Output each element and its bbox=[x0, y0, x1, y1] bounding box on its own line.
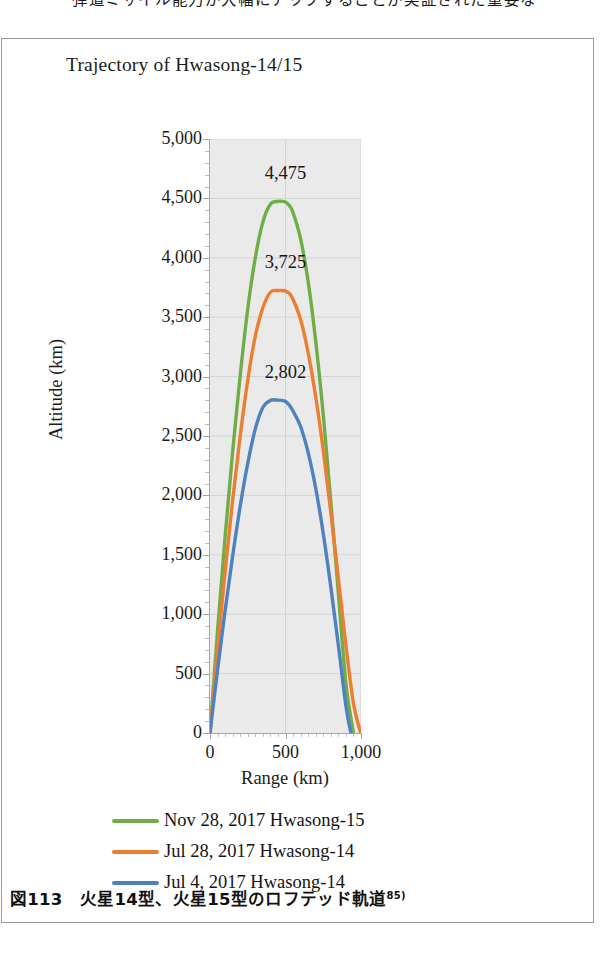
x-axis-tick bbox=[210, 734, 211, 739]
y-axis-minor-tick bbox=[205, 151, 209, 152]
trajectory-curves bbox=[210, 139, 361, 733]
y-axis-tick bbox=[203, 674, 209, 675]
y-axis-minor-tick bbox=[205, 448, 209, 449]
x-axis-minor-tick bbox=[233, 734, 234, 737]
trajectory-line bbox=[210, 201, 353, 733]
y-axis-tick bbox=[203, 733, 209, 734]
x-axis-minor-tick bbox=[338, 734, 339, 737]
x-axis-tick bbox=[286, 734, 287, 739]
y-axis-minor-tick bbox=[205, 424, 209, 425]
y-axis-minor-tick bbox=[205, 721, 209, 722]
x-axis-minor-tick bbox=[346, 734, 347, 737]
x-axis-tick-label: 1,000 bbox=[341, 742, 382, 763]
y-axis-tick-label: 1,500 bbox=[82, 544, 202, 565]
y-axis-minor-tick bbox=[205, 579, 209, 580]
data-label: 3,725 bbox=[265, 252, 307, 273]
data-label: 2,802 bbox=[265, 362, 307, 383]
y-axis-minor-tick bbox=[205, 163, 209, 164]
caption-spacer bbox=[63, 890, 80, 909]
figure-frame: Trajectory of Hwasong-14/15 05001,0001,5… bbox=[1, 38, 594, 923]
y-axis-tick-label: 500 bbox=[82, 663, 202, 684]
y-axis-minor-tick bbox=[205, 412, 209, 413]
y-axis-minor-tick bbox=[205, 484, 209, 485]
y-axis-minor-tick bbox=[205, 353, 209, 354]
x-axis-minor-tick bbox=[353, 734, 354, 737]
y-axis-minor-tick bbox=[205, 662, 209, 663]
x-axis-minor-tick bbox=[270, 734, 271, 737]
y-axis-minor-tick bbox=[205, 293, 209, 294]
x-axis-minor-tick bbox=[293, 734, 294, 737]
y-axis-tick bbox=[203, 198, 209, 199]
legend-item[interactable]: Jul 28, 2017 Hwasong-14 bbox=[2, 836, 568, 867]
y-axis-minor-tick bbox=[205, 305, 209, 306]
page-body-text: 弾道ミサイル能力が大幅にアップすることが実証された重要な bbox=[72, 0, 537, 9]
y-axis-minor-tick bbox=[205, 567, 209, 568]
y-axis-minor-tick bbox=[205, 341, 209, 342]
y-axis-minor-tick bbox=[205, 531, 209, 532]
y-axis-minor-tick bbox=[205, 329, 209, 330]
x-axis-minor-tick bbox=[240, 734, 241, 737]
y-axis-minor-tick bbox=[205, 282, 209, 283]
y-axis-minor-tick bbox=[205, 222, 209, 223]
x-axis-minor-tick bbox=[255, 734, 256, 737]
y-axis-minor-tick bbox=[205, 602, 209, 603]
figure-caption: 図113 火星14型、火星15型のロフテッド軌道85) bbox=[10, 886, 406, 910]
y-axis-tick bbox=[203, 377, 209, 378]
y-axis-minor-tick bbox=[205, 175, 209, 176]
x-axis-tick bbox=[361, 734, 362, 739]
y-axis-tick-label: 3,500 bbox=[82, 306, 202, 327]
y-axis-minor-tick bbox=[205, 234, 209, 235]
x-axis-minor-tick bbox=[301, 734, 302, 737]
y-axis-minor-tick bbox=[205, 460, 209, 461]
figure-caption-text: 火星14型、火星15型のロフテッド軌道 bbox=[80, 890, 387, 909]
y-axis-tick bbox=[203, 495, 209, 496]
y-axis-tick-label: 5,000 bbox=[82, 128, 202, 149]
x-axis-minor-tick bbox=[331, 734, 332, 737]
y-axis-tick-label: 4,500 bbox=[82, 187, 202, 208]
y-axis-minor-tick bbox=[205, 270, 209, 271]
x-axis-tick-label: 0 bbox=[206, 742, 215, 763]
y-axis-minor-tick bbox=[205, 543, 209, 544]
y-axis-tick-label: 3,000 bbox=[82, 366, 202, 387]
y-axis-minor-tick bbox=[205, 685, 209, 686]
y-axis-tick-label: 2,500 bbox=[82, 425, 202, 446]
legend-label: Nov 28, 2017 Hwasong-15 bbox=[164, 810, 364, 831]
x-axis-minor-tick bbox=[308, 734, 309, 737]
x-axis-minor-tick bbox=[218, 734, 219, 737]
y-axis-minor-tick bbox=[205, 638, 209, 639]
y-axis-tick-label: 0 bbox=[82, 722, 202, 743]
legend-label: Jul 28, 2017 Hwasong-14 bbox=[164, 841, 354, 862]
y-axis-minor-tick bbox=[205, 365, 209, 366]
figure-caption-number: 図113 bbox=[10, 890, 63, 909]
y-axis-minor-tick bbox=[205, 626, 209, 627]
y-axis-minor-tick bbox=[205, 388, 209, 389]
y-axis-title: Altitude (km) bbox=[46, 295, 67, 485]
page-body-text-clipped: 弾道ミサイル能力が大幅にアップすることが実証された重要な bbox=[0, 0, 616, 20]
figure-caption-area: 図113 火星14型、火星15型のロフテッド軌道85) bbox=[2, 882, 594, 923]
y-axis-minor-tick bbox=[205, 507, 209, 508]
x-axis-title: Range (km) bbox=[2, 768, 568, 789]
x-axis-minor-tick bbox=[225, 734, 226, 737]
data-label: 4,475 bbox=[265, 163, 307, 184]
x-axis-minor-tick bbox=[263, 734, 264, 737]
y-axis-minor-tick bbox=[205, 210, 209, 211]
y-axis-minor-tick bbox=[205, 519, 209, 520]
figure-caption-footnote: 85) bbox=[387, 890, 406, 901]
y-axis-tick-label: 1,000 bbox=[82, 603, 202, 624]
y-axis-minor-tick bbox=[205, 650, 209, 651]
x-axis-minor-tick bbox=[248, 734, 249, 737]
y-axis-tick bbox=[203, 555, 209, 556]
plot-area bbox=[210, 139, 361, 733]
legend-item[interactable]: Nov 28, 2017 Hwasong-15 bbox=[2, 805, 568, 836]
y-axis-minor-tick bbox=[205, 697, 209, 698]
y-axis-minor-tick bbox=[205, 472, 209, 473]
x-axis-minor-tick bbox=[278, 734, 279, 737]
y-axis-tick bbox=[203, 317, 209, 318]
y-axis-tick-label: 2,000 bbox=[82, 484, 202, 505]
chart-container: Trajectory of Hwasong-14/15 05001,0001,5… bbox=[2, 39, 594, 881]
y-axis-tick bbox=[203, 139, 209, 140]
y-axis-minor-tick bbox=[205, 246, 209, 247]
y-axis-tick bbox=[203, 258, 209, 259]
y-axis-tick bbox=[203, 614, 209, 615]
legend-color-swatch bbox=[112, 819, 159, 823]
